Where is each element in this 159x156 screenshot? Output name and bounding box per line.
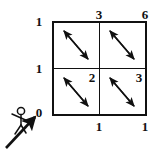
- label-cell-bottom-left-corner: 2: [85, 71, 99, 84]
- label-bottom-right: 1: [138, 120, 152, 133]
- label-top-left-outside: 1: [32, 15, 46, 28]
- label-top-mid: 3: [92, 8, 106, 21]
- label-top-right: 6: [138, 8, 152, 21]
- diagram-canvas: 1 3 6 1 0 2 3 1 1: [0, 0, 159, 156]
- label-left-mid: 1: [32, 62, 46, 75]
- stick-figure-arm-right-icon: [21, 118, 30, 122]
- label-bottom-mid: 1: [92, 120, 106, 133]
- label-cell-bottom-right-corner: 3: [132, 71, 146, 84]
- stick-figure-head-icon: [17, 107, 24, 114]
- label-left-bottom-origin: 0: [32, 106, 46, 119]
